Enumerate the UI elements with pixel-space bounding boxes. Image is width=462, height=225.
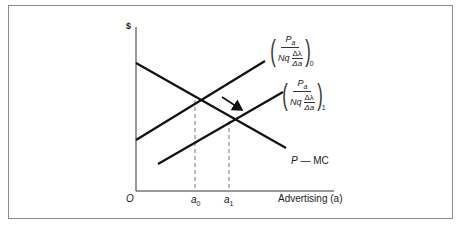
benefit-curve-1: [158, 92, 283, 164]
y-axis-label: $: [126, 22, 131, 31]
curve-0-label: ( Pa Nq ΔλΔa ) 0: [268, 34, 314, 68]
x-tick-a0: a0: [191, 195, 200, 207]
x-axis-label: Advertising (a): [278, 194, 342, 204]
diagram-plot: [0, 0, 462, 225]
x-tick-a1: a1: [224, 195, 233, 207]
p-minus-mc-label: P — MC: [291, 156, 329, 166]
p-minus-mc-line: [136, 63, 286, 148]
curve-1-label: ( Pa Nq ΔλΔa ) 1: [280, 78, 326, 112]
origin-label: O: [126, 194, 134, 204]
shift-arrow-icon: [222, 97, 242, 110]
